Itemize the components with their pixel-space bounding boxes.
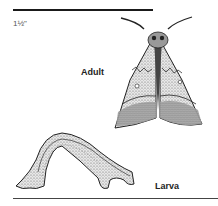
- adult-label: Adult: [81, 67, 104, 77]
- larva-illustration: [16, 133, 134, 189]
- adult-moth-illustration: [115, 17, 202, 128]
- bottom-rule: [13, 198, 218, 199]
- larva-label: Larva: [155, 181, 179, 191]
- illustrations: [0, 0, 218, 206]
